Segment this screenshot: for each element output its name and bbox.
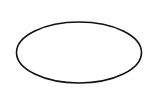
diagram-canvas <box>0 0 160 109</box>
ellipse-shape <box>17 22 142 83</box>
